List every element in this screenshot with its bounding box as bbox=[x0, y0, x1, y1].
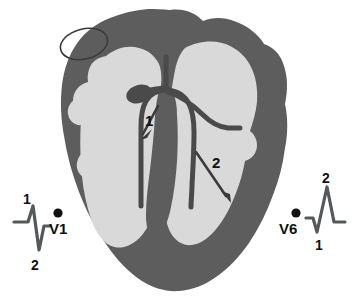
heart-diagram bbox=[0, 0, 354, 305]
v1-electrode-dot bbox=[53, 208, 62, 217]
v1-wave-label-1: 1 bbox=[23, 192, 31, 206]
depolarization-arrow-2-label: 2 bbox=[212, 155, 220, 170]
v1-wave-label-2: 2 bbox=[31, 258, 39, 272]
depolarization-arrow-1-label: 1 bbox=[145, 113, 153, 128]
v6-wave-label-1: 1 bbox=[315, 238, 323, 252]
figure-canvas: V1 1 2 V6 1 2 1 2 bbox=[0, 0, 354, 305]
v6-lead-label: V6 bbox=[279, 221, 297, 236]
v1-ecg-trace bbox=[14, 206, 50, 250]
v1-lead-label: V1 bbox=[49, 221, 67, 236]
v6-electrode-dot bbox=[291, 208, 300, 217]
v6-wave-label-2: 2 bbox=[322, 171, 330, 185]
v6-ecg-trace bbox=[306, 187, 345, 232]
